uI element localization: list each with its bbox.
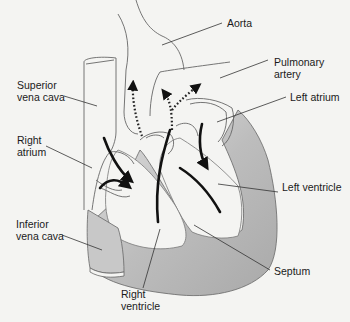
label-superior-vena-cava: Superior vena cava: [17, 79, 65, 103]
label-left-atrium: Left atrium: [290, 91, 340, 103]
label-right-atrium: Right atrium: [17, 134, 46, 158]
dotted-flow-arrows: [133, 84, 198, 136]
label-left-ventricle: Left ventricle: [282, 181, 342, 193]
label-pulmonary-artery: Pulmonary artery: [274, 56, 324, 80]
label-septum: Septum: [274, 265, 310, 277]
heart-diagram: Aorta Pulmonary artery Superior vena cav…: [0, 0, 350, 322]
label-inferior-vena-cava: Inferior vena cava: [16, 218, 64, 242]
label-right-ventricle: Right ventricle: [121, 288, 160, 312]
label-aorta: Aorta: [227, 17, 252, 29]
